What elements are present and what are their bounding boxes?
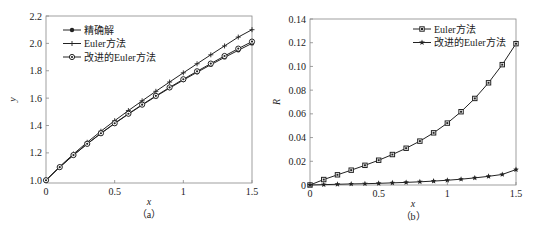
star-marker bbox=[321, 182, 327, 187]
y-tick-label: 0.04 bbox=[289, 132, 307, 143]
star-marker bbox=[458, 176, 464, 181]
y-tick-label: 1.0 bbox=[30, 175, 43, 186]
y-tick-label: 0.14 bbox=[289, 14, 307, 25]
star-marker bbox=[335, 181, 341, 186]
plot-area bbox=[46, 16, 252, 183]
star-marker bbox=[403, 179, 409, 184]
series-line bbox=[310, 170, 516, 185]
y-tick-label: 2.0 bbox=[30, 38, 43, 49]
star-marker bbox=[419, 40, 425, 45]
x-tick-label: 1 bbox=[181, 186, 186, 197]
panel-caption: （a） bbox=[137, 209, 161, 220]
y-tick-label: 2.2 bbox=[30, 11, 43, 22]
y-tick-label: 0.10 bbox=[289, 61, 307, 72]
x-tick-label: 0 bbox=[44, 186, 49, 197]
series-line bbox=[310, 44, 516, 185]
series-line bbox=[46, 43, 252, 180]
y-axis-label: y bbox=[7, 97, 18, 103]
legend-item-label: Euler方法 bbox=[84, 37, 126, 49]
star-marker bbox=[431, 178, 437, 183]
star-marker bbox=[444, 177, 450, 182]
plus-marker bbox=[250, 27, 255, 32]
x-tick-label: 1 bbox=[445, 188, 450, 199]
x-tick-label: 0.5 bbox=[108, 186, 121, 197]
y-tick-label: 0.02 bbox=[289, 156, 307, 167]
legend-item-label: 改进的Euler方法 bbox=[434, 36, 506, 48]
legend-item-label: 改进的Euler方法 bbox=[84, 51, 156, 63]
legend-item-label: Euler方法 bbox=[434, 23, 476, 35]
plus-marker bbox=[208, 52, 213, 57]
legend: 精确解Euler方法改进的Euler方法 bbox=[63, 24, 156, 63]
plus-marker bbox=[222, 43, 227, 48]
y-tick-label: 0.06 bbox=[289, 108, 307, 119]
y-tick-label: 1.6 bbox=[30, 93, 43, 104]
legend: Euler方法改进的Euler方法 bbox=[413, 23, 506, 49]
x-tick-label: 0.5 bbox=[372, 188, 385, 199]
y-tick-label: 0.12 bbox=[289, 37, 307, 48]
y-tick-label: 0.08 bbox=[289, 85, 307, 96]
panel-caption: （b） bbox=[401, 211, 426, 222]
y-tick-label: 0 bbox=[301, 180, 306, 191]
figure: 00.511.51.01.21.41.61.82.02.2xy（a）精确解Eul… bbox=[0, 0, 539, 232]
x-tick-label: 0 bbox=[308, 188, 313, 199]
star-marker bbox=[472, 175, 478, 180]
x-tick-label: 1.5 bbox=[510, 188, 523, 199]
star-marker bbox=[417, 179, 423, 184]
star-marker bbox=[390, 180, 396, 185]
star-marker bbox=[486, 173, 492, 178]
y-tick-label: 1.2 bbox=[30, 147, 43, 158]
plus-marker bbox=[236, 35, 241, 40]
star-marker bbox=[348, 181, 354, 186]
dot-marker bbox=[70, 28, 74, 32]
panel-b: 00.511.500.020.040.060.080.100.120.14xR（… bbox=[271, 14, 522, 223]
series-square bbox=[308, 41, 518, 187]
x-axis-label: x bbox=[146, 196, 152, 207]
panel-a: 00.511.51.01.21.41.61.82.02.2xy（a）精确解Eul… bbox=[7, 11, 258, 221]
star-marker bbox=[499, 171, 505, 176]
x-tick-label: 1.5 bbox=[246, 186, 259, 197]
x-axis-label: x bbox=[410, 198, 416, 209]
y-tick-label: 1.4 bbox=[30, 120, 43, 131]
plus-marker bbox=[70, 41, 75, 46]
legend-item-label: 精确解 bbox=[84, 24, 114, 36]
y-axis-label: R bbox=[271, 99, 282, 106]
y-tick-label: 1.8 bbox=[30, 65, 43, 76]
